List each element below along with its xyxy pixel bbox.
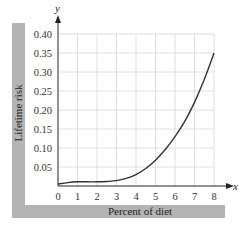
y-axis-label: Lifetime risk <box>12 84 24 142</box>
x-tick-label: 1 <box>75 191 80 202</box>
x-axis-label: Percent of diet <box>108 205 172 217</box>
y-tick-label: 0.20 <box>34 105 52 116</box>
y-tick-label: 0.40 <box>34 29 52 40</box>
y-tick-label: 0.05 <box>34 162 52 173</box>
x-tick-label: 2 <box>94 191 99 202</box>
y-tick-label: 0.25 <box>34 86 52 97</box>
lifetime-risk-chart: 0123456780.050.100.150.200.250.300.350.4… <box>0 0 250 226</box>
y-tick-label: 0.35 <box>34 48 52 59</box>
x-tick-label: 0 <box>55 191 60 202</box>
y-axis-variable: y <box>54 2 60 14</box>
x-tick-label: 4 <box>133 191 139 202</box>
x-tick-label: 7 <box>192 191 197 202</box>
band-inner-corner <box>25 23 225 205</box>
x-axis-variable: x <box>232 180 238 192</box>
x-tick-label: 8 <box>211 191 216 202</box>
y-tick-label: 0.15 <box>34 124 52 135</box>
x-tick-label: 6 <box>172 191 177 202</box>
x-tick-label: 5 <box>153 191 158 202</box>
x-tick-label: 3 <box>114 191 119 202</box>
y-tick-label: 0.10 <box>34 143 52 154</box>
y-axis-arrow-icon <box>55 15 61 23</box>
y-tick-label: 0.30 <box>34 67 52 78</box>
